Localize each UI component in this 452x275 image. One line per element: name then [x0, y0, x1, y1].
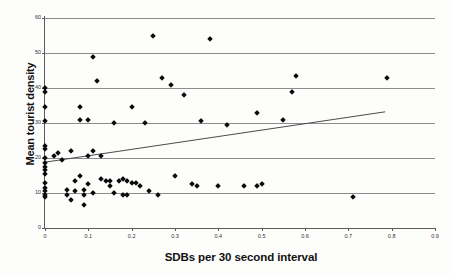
x-tick-label: 0.1: [85, 234, 93, 240]
x-tick-label: 0.7: [345, 234, 353, 240]
y-tick-label: 60: [35, 15, 41, 21]
trendline: [45, 18, 435, 228]
x-tick-mark: [348, 228, 349, 231]
x-axis-line: [44, 228, 435, 229]
x-tick-label: 0.5: [258, 234, 266, 240]
y-tick-label: 10: [35, 190, 41, 196]
y-tick-label: 40: [35, 85, 41, 91]
x-tick-mark: [45, 228, 46, 231]
x-tick-mark: [175, 228, 176, 231]
x-tick-label: 0.6: [301, 234, 309, 240]
y-tick-label: 20: [35, 155, 41, 161]
y-tick-label: 50: [35, 50, 41, 56]
x-tick-label: 0.2: [128, 234, 136, 240]
x-tick-mark: [218, 228, 219, 231]
x-tick-mark: [88, 228, 89, 231]
y-tick-label: 30: [35, 120, 41, 126]
x-tick-label: 0.3: [171, 234, 179, 240]
plot-area: 0102030405060 00.10.20.30.40.50.60.70.80…: [45, 18, 435, 228]
x-tick-label: 0: [43, 234, 46, 240]
x-tick-label: 0.8: [388, 234, 396, 240]
x-tick-label: 0.9: [431, 234, 439, 240]
x-axis-title: SDBs per 30 second interval: [45, 251, 437, 263]
y-tick-label: 0: [38, 225, 41, 231]
x-tick-mark: [262, 228, 263, 231]
x-tick-mark: [132, 228, 133, 231]
x-tick-label: 0.4: [215, 234, 223, 240]
x-tick-mark: [435, 228, 436, 231]
x-tick-mark: [305, 228, 306, 231]
scatter-chart-figure: Mean tourist density SDBs per 30 second …: [0, 0, 452, 275]
x-tick-mark: [392, 228, 393, 231]
